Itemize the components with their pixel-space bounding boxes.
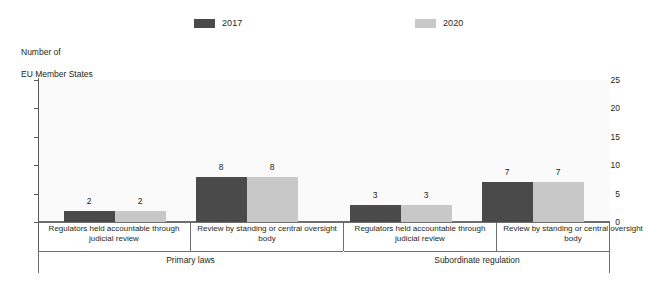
group-label-primary-laws: Primary laws (38, 252, 343, 268)
bar-2017-subordinate-judicial (350, 205, 401, 222)
y-tick-label-10: 10 (592, 161, 620, 170)
bar-value-2020-subordinate-oversight: 7 (541, 168, 575, 177)
category-label-table: Regulators held accountable through judi… (38, 222, 610, 273)
category-divider-right-edge (609, 222, 610, 251)
group-label-subordinate-regulation: Subordinate regulation (344, 252, 610, 268)
y-tick-label-20: 20 (592, 104, 620, 113)
y-tick-25 (34, 80, 39, 81)
bar-value-2017-primary-judicial: 2 (72, 197, 106, 206)
group-edge-right (609, 251, 610, 273)
category-cell-primary-oversight: Review by standing or central oversight … (191, 222, 343, 251)
category-cell-subordinate-judicial-line2: judicial review (355, 234, 486, 244)
bar-value-2017-subordinate-oversight: 7 (490, 168, 524, 177)
y-tick-5 (34, 194, 39, 195)
category-cell-subordinate-oversight-line2: body (503, 234, 643, 244)
category-cell-primary-judicial-line1: Regulators held accountable through (49, 224, 180, 234)
bar-2020-subordinate-oversight (533, 182, 584, 222)
bar-2020-primary-oversight (247, 177, 298, 222)
category-cell-subordinate-oversight: Review by standing or central oversight … (497, 222, 648, 251)
category-cell-subordinate-judicial-line1: Regulators held accountable through (355, 224, 486, 234)
category-cell-primary-oversight-line2: body (197, 234, 337, 244)
bar-2020-subordinate-judicial (401, 205, 452, 222)
y-tick-15 (34, 137, 39, 138)
y-tick-label-5: 5 (592, 190, 620, 199)
y-tick-label-25: 25 (592, 76, 620, 85)
bar-2017-subordinate-oversight (482, 182, 533, 222)
bar-value-2017-primary-oversight: 8 (204, 163, 238, 172)
bar-value-2020-primary-judicial: 2 (123, 197, 157, 206)
bar-value-2017-subordinate-judicial: 3 (358, 191, 392, 200)
bar-value-2020-primary-oversight: 8 (255, 163, 289, 172)
group-edge-left (38, 251, 39, 273)
bar-2017-primary-oversight (196, 177, 247, 222)
category-cell-subordinate-oversight-line1: Review by standing or central oversight (503, 224, 643, 234)
category-cell-primary-judicial: Regulators held accountable through judi… (38, 222, 190, 251)
category-cell-primary-oversight-line1: Review by standing or central oversight (197, 224, 337, 234)
category-sub-row: Regulators held accountable through judi… (38, 222, 610, 251)
y-tick-10 (34, 165, 39, 166)
y-tick-label-15: 15 (592, 133, 620, 142)
y-tick-20 (34, 108, 39, 109)
category-cell-subordinate-judicial: Regulators held accountable through judi… (344, 222, 496, 251)
category-cell-primary-judicial-line2: judicial review (49, 234, 180, 244)
bar-2020-primary-judicial (115, 211, 166, 222)
bar-value-2020-subordinate-judicial: 3 (409, 191, 443, 200)
bar-2017-primary-judicial (64, 211, 115, 222)
